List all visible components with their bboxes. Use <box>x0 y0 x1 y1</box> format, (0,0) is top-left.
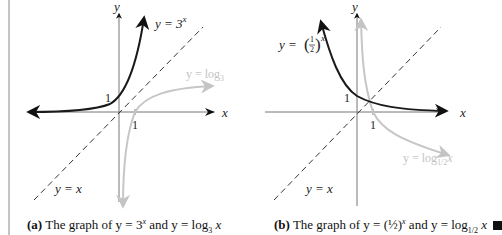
svg-text:1: 1 <box>310 35 314 44</box>
y-axis-label: y <box>112 0 120 14</box>
svg-text:2: 2 <box>310 45 314 54</box>
curve-exp-half <box>321 22 446 111</box>
caption-a-label: (a) <box>27 217 42 232</box>
curve-log-half <box>361 20 448 155</box>
panel-b: y x 1 1 y = ( 1 2 ) x y = log1/2x y = x <box>265 0 466 206</box>
curve-exp3 <box>29 18 144 112</box>
label-identity: y = x <box>304 181 333 196</box>
caption-b-label: (b) <box>274 217 290 232</box>
x-tick-label-1: 1 <box>132 118 138 132</box>
svg-text:y =: y = <box>277 37 297 52</box>
caption-a: (a) The graph of y = 3x and y = log3 x <box>27 217 221 235</box>
caption-b: (b) The graph of y = (½)x and y = log1/2… <box>274 217 502 235</box>
svg-text:): ) <box>315 35 321 54</box>
x-tick-label-1: 1 <box>370 118 376 132</box>
panel-a: y x 1 1 y = 3x y = log3 y = x <box>29 0 228 206</box>
y-axis-label: y <box>350 0 358 14</box>
label-log3: y = log3 <box>186 67 224 83</box>
label-exp-half: y = ( 1 2 ) x <box>277 33 325 54</box>
x-axis-label: x <box>221 105 228 120</box>
label-exp3: y = 3x <box>153 14 187 31</box>
y-tick-label-1: 1 <box>105 91 111 105</box>
x-axis-label: x <box>459 105 466 120</box>
label-identity: y = x <box>53 181 82 196</box>
end-of-proof-icon <box>493 221 502 230</box>
curve-log3 <box>123 86 212 206</box>
y-tick-label-1: 1 <box>344 91 350 105</box>
svg-text:x: x <box>320 33 325 43</box>
